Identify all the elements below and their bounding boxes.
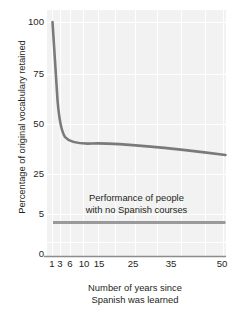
y-tick-label: 25 (10, 169, 44, 179)
x-tick-label: 15 (94, 259, 105, 269)
y-tick-label: 5 (10, 209, 44, 219)
gridline-vertical (60, 10, 61, 256)
gridline-vertical (181, 10, 182, 256)
gridline-horizontal (47, 22, 226, 23)
baseline-annotation-line2: with no Spanish courses (47, 204, 226, 216)
x-tick-label: 35 (166, 259, 177, 269)
vocabulary-retention-chart: Percentage of original vocabulary retain… (0, 0, 241, 319)
gridline-horizontal (47, 74, 226, 75)
gridline-vertical (115, 10, 116, 256)
x-tick-label: 10 (79, 259, 90, 269)
x-axis-title-line1: Number of years since (40, 282, 230, 294)
x-tick-label: 25 (128, 259, 139, 269)
y-axis-tick-labels: 100 75 50 25 5 0 (8, 0, 44, 319)
y-tick-label: 75 (10, 69, 44, 79)
x-tick-label: 3 (57, 259, 62, 269)
x-tick-label: 6 (67, 259, 72, 269)
x-tick-label: 1 (49, 259, 54, 269)
gridline-vertical (205, 10, 206, 256)
plot-area (47, 10, 226, 256)
gridline-horizontal (47, 242, 226, 243)
gridline-horizontal (47, 174, 226, 175)
gridline-vertical (70, 10, 71, 256)
gridline-vertical (135, 10, 136, 256)
x-axis-title: Number of years since Spanish was learne… (40, 282, 230, 305)
y-tick-label: 100 (10, 17, 44, 27)
y-tick-label: 0 (10, 249, 44, 259)
x-tick-label: 50 (217, 259, 228, 269)
y-tick-label: 50 (10, 119, 44, 129)
gridline-vertical (157, 10, 158, 256)
gridline-vertical (83, 10, 84, 256)
gridline-vertical (98, 10, 99, 256)
baseline-annotation: Performance of people with no Spanish co… (47, 192, 226, 216)
gridline-vertical (52, 10, 53, 256)
baseline-annotation-line1: Performance of people (47, 192, 226, 204)
x-axis-title-line2: Spanish was learned (40, 294, 230, 306)
gridline-vertical (223, 10, 224, 256)
gridline-horizontal (47, 124, 226, 125)
